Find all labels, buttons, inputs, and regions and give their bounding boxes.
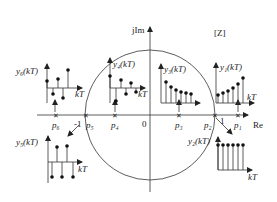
pole-label-p5: p₅ xyxy=(85,120,94,130)
pole-label-p3: p₃ xyxy=(174,120,183,130)
y2-label: y₂(kT) xyxy=(187,136,210,146)
svg-text:✕: ✕ xyxy=(235,112,241,120)
plot-y3: y₃(kT) kT xyxy=(161,64,200,103)
pole-label-p6: p₆ xyxy=(51,120,60,130)
y4-label: y₄(kT) xyxy=(112,59,135,69)
svg-text:kT: kT xyxy=(247,92,257,102)
svg-text:✕: ✕ xyxy=(176,112,182,120)
svg-text:kT: kT xyxy=(138,89,148,99)
pole-label-p4: p₄ xyxy=(110,120,119,130)
svg-text:kT: kT xyxy=(75,89,85,99)
y5-label: y₅(kT) xyxy=(15,137,38,147)
origin-label: 0 xyxy=(142,119,147,129)
minus-one-label: -1 xyxy=(74,119,82,129)
y1-label: y₁(kT) xyxy=(219,62,242,72)
pole-label-p2: p₂ xyxy=(203,120,212,130)
imag-axis-label: jIm xyxy=(131,25,145,35)
plot-y6: y₆(kT) kT xyxy=(15,64,85,103)
svg-text:✕: ✕ xyxy=(53,112,59,120)
svg-text:✕: ✕ xyxy=(212,112,218,120)
z-plane-diagram: jIm [Z] Re 0 -1 1 ✕ ✕ ✕ ✕ ✕ ✕ p₆ p₅ p₄ p… xyxy=(0,0,277,202)
y3-label: y₃(kT) xyxy=(163,64,186,74)
plot-y1: y₁(kT) kT xyxy=(216,62,257,103)
svg-text:✕: ✕ xyxy=(83,112,89,120)
pole-label-p1: p₁ xyxy=(233,120,242,130)
y6-label: y₆(kT) xyxy=(15,66,38,76)
plane-label: [Z] xyxy=(214,28,226,38)
real-axis-label: Re xyxy=(253,120,263,130)
svg-text:✕: ✕ xyxy=(112,112,118,120)
svg-text:kT: kT xyxy=(248,172,258,182)
plot-y4: y₄(kT) kT xyxy=(108,58,148,103)
plot-y5: y₅(kT) kT xyxy=(15,136,88,183)
svg-text:kT: kT xyxy=(78,164,88,174)
